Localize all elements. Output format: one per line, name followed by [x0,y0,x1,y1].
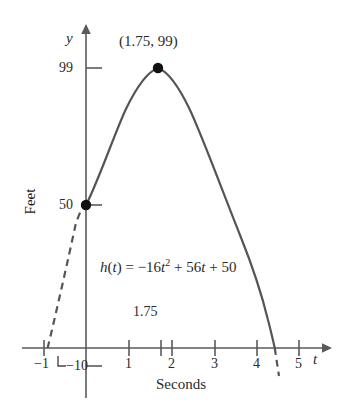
x-tick-label-1: 1 [125,357,132,371]
x-tick-label-minus-1: −1 [34,357,49,371]
y-intercept-point-marker [81,200,91,210]
y-axis-title-feet: Feet [22,180,39,224]
y-axis-ticks [86,68,102,366]
y-tick-label-minus-10: −10 [66,359,88,373]
y-tick-label-99: 99 [59,61,73,75]
x-tick-label-5: 5 [295,357,302,371]
x-axis [22,343,332,353]
graph-figure: y t 99 50 −10 −1 1 2 3 4 5 1.75 (1.75, 9… [0,0,338,404]
equation-minus-16: −16 [138,259,161,275]
vertex-point-marker [153,63,163,73]
x-tick-label-4: 4 [253,357,260,371]
y-tick-label-50: 50 [59,198,73,212]
vertex-coordinate-label: (1.75, 99) [119,34,178,49]
y-axis [81,24,91,398]
parabola-solid-curve [86,68,275,348]
equation-plus-56: + 56 [170,259,201,275]
equation-plus-50: + 50 [205,259,236,275]
parabola-dashed-right [275,348,279,376]
x-axis-title-seconds: Seconds [156,377,206,392]
parabola-dashed-left [48,205,86,348]
y-axis-name-label: y [66,31,73,46]
equation-equals: = [122,259,138,275]
x-axis-arrow-icon [322,343,332,353]
x-tick-label-2: 2 [168,357,175,371]
y-axis-arrow-icon [81,24,91,34]
x-axis-name-label: t [313,352,317,367]
equation-h: h [100,259,108,275]
x-tick-label-3: 3 [211,357,218,371]
equation-label: h(t) = −16t2 + 56t + 50 [100,258,236,275]
x-annotation-1-75: 1.75 [133,305,158,319]
minus-ten-connector [58,356,66,366]
parabola-plot [0,0,338,404]
